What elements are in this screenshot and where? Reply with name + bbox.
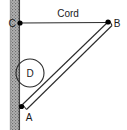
node-c-dot [17,20,22,25]
rod-line-upper [23,21,110,105]
statics-diagram: Cord C B A D [0,0,127,130]
cord-line [20,23,109,24]
cord-label: Cord [57,8,79,19]
point-a-label: A [26,112,33,123]
diagram-canvas: Cord C B A D [0,0,127,130]
node-a-dot [19,104,24,109]
node-b-dot [105,19,110,24]
rod-member [23,21,113,110]
rod-line-lower [27,26,113,110]
circle-d-label: D [26,68,33,79]
point-c-label: C [8,18,15,29]
point-b-label: B [114,18,121,29]
cord-member [20,23,109,24]
